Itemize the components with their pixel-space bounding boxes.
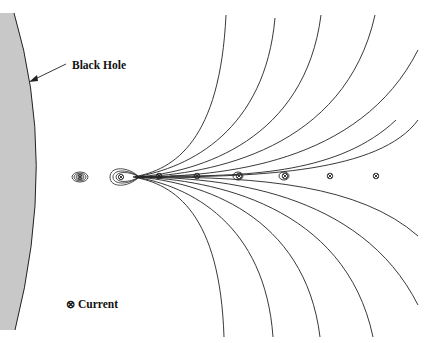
legend-label: Current xyxy=(78,298,118,310)
current-icon xyxy=(118,174,123,179)
field-lines-lower xyxy=(133,177,418,337)
field-lines-upper xyxy=(133,15,418,177)
current-icon xyxy=(78,175,82,179)
current-icon xyxy=(279,172,289,180)
field-line-diagram xyxy=(0,0,427,343)
current-icon xyxy=(233,172,243,180)
black-hole-label: Black Hole xyxy=(72,59,126,71)
black-hole-arrow xyxy=(29,64,66,82)
current-icon xyxy=(373,173,379,179)
current-legend-icon: ⊗ xyxy=(66,299,75,310)
legend: ⊗ Current xyxy=(66,298,118,310)
black-hole-shape xyxy=(0,13,36,330)
current-icon xyxy=(327,173,333,179)
